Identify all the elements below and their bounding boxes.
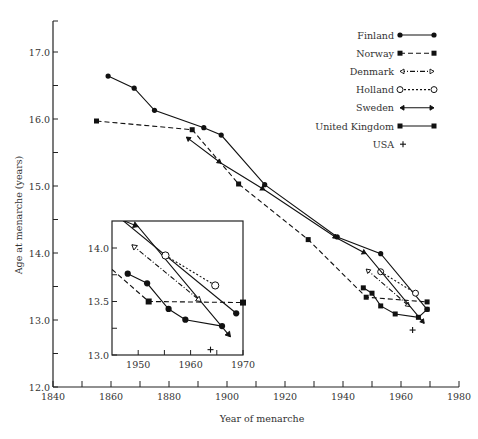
inset-point-united-kingdom [219, 323, 225, 329]
x-tick-label: 1940 [331, 391, 355, 402]
inset-point-united-kingdom [144, 280, 150, 286]
point-finland [152, 108, 157, 113]
legend-label: United Kingdom [315, 121, 394, 132]
inset-point-finland [233, 310, 239, 316]
legend-marker-end [430, 105, 434, 110]
legend: FinlandNorwayDenmarkHollandSwedenUnited … [315, 30, 437, 150]
legend-item-sweden: Sweden [356, 102, 434, 113]
inset-x-tick-label: 1960 [179, 359, 203, 370]
inset-point-norway [240, 300, 246, 306]
legend-label: Denmark [350, 66, 395, 77]
legend-marker-start [398, 51, 403, 56]
x-tick-label: 1900 [215, 391, 239, 402]
main-axes: 1840186018801900192019401960198012.013.0… [29, 21, 471, 402]
point-finland [132, 86, 137, 91]
legend-label: Finland [357, 30, 394, 41]
y-axis-title: Age at menarche (years) [13, 156, 24, 276]
legend-marker-start [398, 124, 403, 129]
legend-label: Norway [356, 48, 394, 59]
line-denmark [366, 269, 410, 307]
y-tick-label: 17.0 [29, 47, 50, 58]
legend-item-norway: Norway [356, 48, 436, 59]
point-united-kingdom [425, 307, 430, 312]
point-finland [219, 132, 224, 137]
inset-y-tick-label: 13.5 [88, 296, 109, 307]
x-tick-label: 1880 [157, 391, 181, 402]
point-united-kingdom [370, 291, 375, 296]
inset-point-united-kingdom [165, 306, 171, 312]
series-usa [410, 327, 416, 333]
legend-marker-start [400, 105, 404, 110]
legend-label: Holland [356, 84, 394, 95]
legend-item-finland: Finland [357, 30, 436, 41]
point-finland [106, 74, 111, 79]
legend-item-denmark: Denmark [350, 66, 434, 77]
legend-item-united-kingdom: United Kingdom [315, 121, 436, 132]
legend-label: Sweden [356, 102, 394, 113]
y-tick-label: 12.0 [29, 382, 50, 393]
x-tick-label: 1920 [273, 391, 297, 402]
inset-point-holland [212, 282, 219, 289]
inset-chart: 19501960197013.013.514.0 [88, 220, 255, 370]
point-norway [190, 127, 195, 132]
inset-point-united-kingdom [182, 317, 188, 323]
inset-point-holland [162, 252, 169, 259]
point-sweden [362, 250, 368, 256]
point-norway [364, 295, 369, 300]
y-tick-label: 13.0 [29, 315, 50, 326]
legend-marker-start [397, 87, 403, 93]
y-tick-label: 15.0 [29, 181, 50, 192]
point-united-kingdom [378, 303, 383, 308]
point-norway [94, 119, 99, 124]
legend-marker-start [400, 69, 404, 74]
x-tick-label: 1860 [99, 391, 123, 402]
point-norway [236, 181, 241, 186]
legend-item-usa: USA [373, 139, 406, 150]
point-denmark [365, 267, 371, 273]
inset-point-norway [146, 299, 152, 305]
point-holland [413, 290, 419, 296]
legend-marker-end [432, 124, 437, 129]
point-united-kingdom [393, 311, 398, 316]
legend-marker-start [397, 32, 402, 37]
x-tick-label: 1840 [41, 391, 65, 402]
y-tick-label: 14.0 [29, 248, 50, 259]
series-united-kingdom [361, 285, 430, 319]
legend-label: USA [373, 139, 395, 150]
y-tick-label: 16.0 [29, 114, 50, 125]
point-norway [306, 237, 311, 242]
legend-marker [400, 141, 406, 147]
x-tick-label: 1960 [389, 391, 413, 402]
point-united-kingdom [361, 285, 366, 290]
point-norway [425, 299, 430, 304]
point-finland [378, 251, 383, 256]
inset-y-tick-label: 14.0 [88, 243, 109, 254]
menarche-chart: 1840186018801900192019401960198012.013.0… [0, 0, 478, 439]
inset-frame [112, 221, 243, 355]
inset-x-tick-label: 1950 [126, 359, 150, 370]
x-tick-label: 1980 [447, 391, 471, 402]
series-denmark [365, 267, 412, 308]
inset-point-united-kingdom [125, 271, 131, 277]
point-finland [201, 125, 206, 130]
x-axis-title: Year of menarche [219, 413, 305, 424]
legend-marker-end [430, 69, 434, 74]
legend-marker-end [432, 51, 437, 56]
inset-x-tick-label: 1970 [231, 359, 255, 370]
legend-marker-end [431, 32, 436, 37]
point-united-kingdom [416, 315, 421, 320]
legend-marker-end [431, 87, 437, 93]
point-usa [410, 327, 416, 333]
legend-item-holland: Holland [356, 84, 437, 95]
inset-y-tick-label: 13.0 [88, 350, 109, 361]
